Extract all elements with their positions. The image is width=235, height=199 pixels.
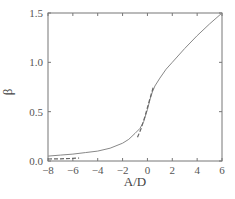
x-tick-label: 4 xyxy=(194,164,200,176)
plot-border xyxy=(48,13,222,161)
x-axis-ticks: −8−6−4−20246 xyxy=(42,13,225,176)
series-asymptote-center xyxy=(138,86,154,137)
series-layer xyxy=(48,13,222,159)
x-axis-label: A/D xyxy=(124,174,146,189)
x-tick-label: −6 xyxy=(67,164,79,176)
x-tick-label: 6 xyxy=(219,164,225,176)
y-tick-label: 1.5 xyxy=(29,7,43,19)
x-tick-label: 2 xyxy=(170,164,176,176)
y-axis-label: β xyxy=(0,88,15,95)
x-tick-label: −4 xyxy=(92,164,104,176)
y-axis-ticks: 0.00.51.01.5 xyxy=(29,7,222,167)
y-tick-label: 1.0 xyxy=(29,56,43,68)
series-asymptote-low xyxy=(48,158,79,159)
chart: −8−6−4−20246 0.00.51.01.5 A/D β xyxy=(0,0,235,199)
y-tick-label: 0.5 xyxy=(29,106,43,118)
x-tick-label: −8 xyxy=(42,164,54,176)
y-tick-label: 0.0 xyxy=(29,155,43,167)
plot-frame xyxy=(48,13,222,161)
series-exact xyxy=(48,13,222,156)
